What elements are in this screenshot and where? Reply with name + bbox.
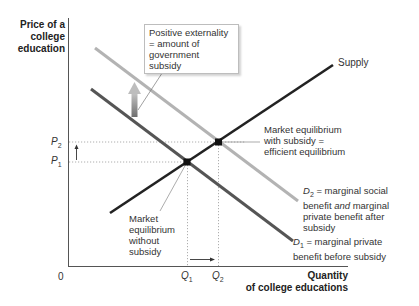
tick-p2: P2 (51, 136, 62, 151)
x-axis-title-2: of college educations (232, 282, 348, 294)
y-axis-title-line: college (18, 31, 65, 43)
d1-label: D1 = marginal private benefit before sub… (293, 236, 386, 262)
label-line: Market equilibrium (264, 124, 345, 135)
label-line: without (129, 235, 175, 246)
label-line: private benefit after (303, 211, 389, 222)
label-line: subsidy (129, 246, 175, 257)
x-axis-title-line: Quantity (268, 270, 348, 282)
label-line: benefit before subsidy (293, 251, 386, 262)
x-axis-title: Quantity (268, 270, 348, 282)
diagram: Price of a college education P2 P1 0 Q1 … (0, 0, 419, 306)
y-axis-title-line: Price of a (18, 19, 65, 31)
callout-line: = amount of (149, 38, 234, 49)
supply-label: Supply (338, 57, 369, 68)
equilibrium-point-2 (215, 139, 222, 146)
demand-shift-arrow-icon (128, 82, 141, 117)
tick-p1: P1 (51, 155, 62, 170)
tick-q2: Q2 (212, 270, 224, 285)
label-line: with subsidy = (264, 135, 345, 146)
positive-externality-callout: Positive externality = amount of governm… (144, 24, 239, 74)
label-line: benefit and marginal (303, 200, 389, 211)
price-increase-arrow-icon (75, 145, 79, 161)
x-axis-title-line: of college educations (232, 282, 348, 294)
quantity-increase-arrow-icon (190, 258, 215, 262)
label-line: equilibrium (129, 224, 175, 235)
label-line: Market (129, 213, 175, 224)
callout-line: government subsidy (149, 49, 234, 71)
y-axis-title: Price of a college education (18, 19, 65, 55)
label-line: efficient equilibrium (264, 146, 345, 157)
origin-label: 0 (58, 271, 64, 282)
eq-without-subsidy-label: Market equilibrium without subsidy (129, 213, 175, 257)
label-line: D1 = marginal private (293, 236, 386, 251)
eq-with-subsidy-label: Market equilibrium with subsidy = effici… (264, 124, 345, 157)
y-axis-title-line: education (18, 43, 65, 55)
equilibrium-point-1 (184, 159, 191, 166)
label-line: subsidy (303, 222, 389, 233)
tick-q1: Q1 (181, 270, 193, 285)
d2-label: D2 = marginal social benefit and margina… (303, 185, 389, 233)
label-line: D2 = marginal social (303, 185, 389, 200)
callout-line: Positive externality (149, 27, 234, 38)
